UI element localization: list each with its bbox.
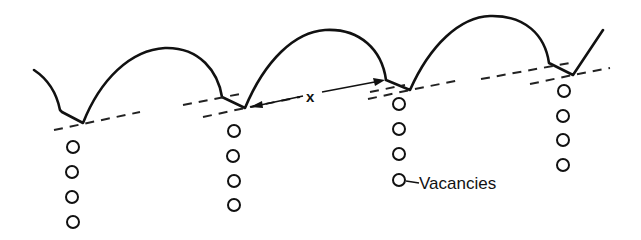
jump-distance-label: x — [306, 88, 315, 105]
lattice-planes — [54, 62, 610, 130]
vacancy-jump-diagram: x Vacancies — [0, 0, 641, 240]
vacancy-column-2 — [227, 125, 240, 211]
vacancy-column-3 — [393, 98, 405, 186]
vacancies-leader — [406, 181, 419, 183]
vacancy-column-1 — [66, 141, 79, 228]
jump-distance-arrow — [250, 78, 385, 108]
vacancies-label: Vacancies — [419, 174, 496, 193]
jump-trajectory — [34, 16, 603, 123]
vacancy-column-4 — [557, 85, 570, 171]
